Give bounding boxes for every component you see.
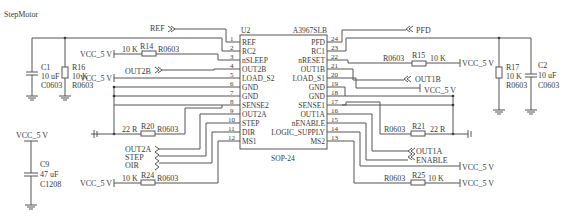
c1-pkg: C0603: [41, 81, 62, 90]
pin-name-9: OUT2A: [242, 110, 267, 119]
pin-name-7: GND: [242, 92, 259, 101]
resistor-r15-net: R0603 R15 10 K VCC_5 V: [342, 51, 494, 68]
c2-pkg: C0603: [538, 81, 559, 90]
port-dir-label: OIR: [125, 161, 139, 170]
left-pin-names: REF RC2 nSLEEP OUT2B LOAD_S2 GND GND SEN…: [242, 38, 275, 146]
capacitor-c2: C2 10 uF C0603: [525, 61, 559, 114]
chip-part: A3967SLB: [293, 26, 327, 35]
port-group-right: OUT1A ENABLE: [342, 114, 448, 165]
r25-ref: R25: [412, 171, 425, 180]
pin-name-22: nRESET: [298, 56, 325, 65]
pin-name-8: SENSE2: [242, 101, 269, 110]
pin-name-1: REF: [242, 38, 256, 47]
vcc-label-load-s2: VCC_5 V: [80, 74, 112, 83]
vcc-label-r25: VCC_5 V: [462, 179, 494, 188]
r15-pkg: R0603: [383, 54, 404, 63]
r25-value: 10 K: [428, 174, 444, 183]
port-out2b: OUT2B: [125, 67, 226, 76]
r24-pkg: R0603: [157, 174, 178, 183]
r21-pkg: R0603: [384, 125, 405, 134]
pin-name-20: LOAD_S1: [292, 74, 325, 83]
vcc-label-r15: VCC_5 V: [462, 59, 494, 68]
port-out1b: OUT1B: [342, 69, 441, 84]
port-ref-label: REF: [150, 24, 165, 33]
pin-name-19: GND: [309, 83, 326, 92]
port-pfd: PFD: [342, 26, 431, 42]
r15-value: 10 K: [430, 54, 446, 63]
c1-value: 10 uF: [41, 72, 60, 81]
r21-ref: R21: [412, 122, 425, 131]
port-pfd-label: PFD: [416, 26, 431, 35]
schematic-canvas: StepMotor U2 A3967SLB SOP-24 REF RC2 nSL…: [0, 0, 569, 223]
capacitor-c1: C1 10 uF C0603: [26, 38, 62, 100]
pin-name-13: MS2: [310, 137, 325, 146]
vcc-load-s2: VCC_5 V: [80, 74, 226, 83]
pin-name-3: nSLEEP: [242, 56, 268, 65]
c9-pkg: C1208: [40, 180, 61, 189]
pin-name-15: nENABLE: [292, 119, 326, 128]
r24-value: 10 K: [122, 174, 138, 183]
pin-name-21: OUT1B: [301, 65, 325, 74]
r16-ref: R16: [72, 63, 85, 72]
pin-name-23: RC1: [311, 47, 325, 56]
pin-name-5: LOAD_S2: [242, 74, 275, 83]
r17-pkg: R0603: [506, 81, 527, 90]
r25-pkg: R0603: [384, 174, 405, 183]
port-out2b-label: OUT2B: [125, 67, 151, 76]
pin-name-2: RC2: [242, 47, 256, 56]
vcc-label-r14: VCC_5 V: [80, 50, 112, 59]
pin-name-17: SENSE1: [298, 101, 325, 110]
r24-ref: R24: [141, 171, 154, 180]
resistor-r17: R17 10 K R0603: [493, 38, 527, 114]
c9-value: 47 uF: [40, 170, 59, 179]
capacitor-c9: VCC_5 V C9 47 uF C1208: [16, 131, 61, 209]
r17-value: 10 K: [506, 72, 522, 81]
pin-name-18: GND: [309, 92, 326, 101]
right-pin-names: PFD RC1 nRESET OUT1B LOAD_S1 GND GND SEN…: [271, 38, 325, 146]
resistor-r24-net: VCC_5 V 10 K R24 R0603: [80, 141, 226, 188]
resistor-r21: R0603 R21 22 R: [342, 102, 471, 138]
pin-name-12: MS1: [242, 137, 257, 146]
chip-u2: U2 A3967SLB SOP-24 REF RC2 nSLEEP OUT2B …: [226, 26, 342, 163]
pin-name-10: STEP: [242, 119, 260, 128]
vcc-label-load-s1: VCC_5 V: [424, 86, 456, 95]
resistor-r14-net: VCC_5 V 10 K R14 R0603: [80, 42, 226, 60]
pin-name-6: GND: [242, 83, 259, 92]
pin-name-24: PFD: [311, 38, 325, 47]
c2-value: 10 uF: [538, 71, 557, 80]
c1-ref: C1: [41, 63, 50, 72]
r14-ref: R14: [140, 42, 153, 51]
port-out1a-label: OUT1A: [416, 147, 442, 156]
r15-ref: R15: [412, 51, 425, 60]
resistor-r20: 22 R R20 R0603: [91, 105, 222, 138]
chip-package: SOP-24: [271, 154, 295, 163]
resistor-r16: R16 10 K R0603: [59, 38, 93, 100]
chip-ref: U2: [241, 26, 250, 35]
r20-pkg: R0603: [157, 125, 178, 134]
vcc-label-c9: VCC_5 V: [16, 131, 48, 140]
r14-pkg: R0603: [158, 45, 179, 54]
schematic-title: StepMotor: [4, 10, 39, 19]
pin-name-11: DIR: [242, 128, 255, 137]
pin-name-16: OUT1A: [300, 110, 325, 119]
vcc-label-logic: VCC_5 V: [462, 163, 494, 172]
pin-name-14: LOGIC_SUPPLY: [271, 128, 325, 137]
gnd-bus-left: [114, 87, 226, 105]
r20-value: 22 R: [122, 125, 138, 134]
r20-ref: R20: [141, 122, 154, 131]
r14-value: 10 K: [122, 45, 138, 54]
port-out1b-label: OUT1B: [415, 75, 441, 84]
r21-value: 22 R: [430, 125, 446, 134]
pin-name-4: OUT2B: [242, 65, 266, 74]
port-enable-label: ENABLE: [416, 156, 448, 165]
port-ref: REF: [150, 24, 226, 42]
c9-ref: C9: [40, 160, 49, 169]
r17-ref: R17: [506, 63, 519, 72]
vcc-label-r24: VCC_5 V: [80, 179, 112, 188]
c2-ref: C2: [538, 61, 547, 70]
